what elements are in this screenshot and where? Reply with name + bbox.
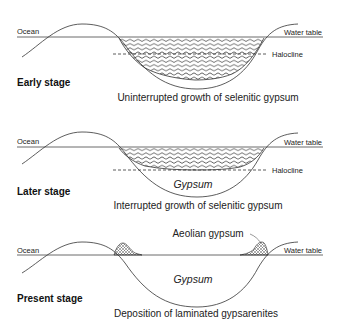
water-table-label: Water table	[284, 246, 322, 255]
ocean-label: Ocean	[17, 137, 39, 146]
stage-caption: Interrupted growth of selenitic gypsum	[114, 200, 283, 211]
gypsum-label: Gypsum	[173, 273, 212, 285]
ocean-label: Ocean	[17, 27, 39, 36]
panel-present-stage: Ocean Water table Aeolian gypsum Gypsum …	[17, 228, 323, 319]
gypsum-label: Gypsum	[173, 178, 212, 190]
aeolian-leader-line	[250, 234, 261, 243]
water-table-label: Water table	[284, 138, 322, 147]
evaporite-stages-diagram: Ocean Water table Halocline Early stage …	[0, 0, 339, 332]
stage-caption: Deposition of laminated gypsarenites	[114, 308, 278, 319]
stage-label: Early stage	[17, 77, 71, 88]
selenitic-gypsum-fill	[119, 38, 264, 80]
stage-label: Later stage	[17, 186, 71, 197]
halocline-label: Halocline	[272, 166, 303, 175]
aeolian-dune-right	[240, 242, 268, 255]
water-table-label: Water table	[284, 28, 322, 37]
aeolian-gypsum-label: Aeolian gypsum	[172, 228, 243, 239]
selenitic-gypsum-fill	[119, 148, 264, 170]
ocean-label: Ocean	[17, 246, 39, 255]
halocline-label: Halocline	[272, 50, 303, 59]
stage-label: Present stage	[17, 293, 83, 304]
stage-caption: Uninterrupted growth of selenitic gypsum	[117, 92, 298, 103]
aeolian-dune-left	[114, 243, 142, 255]
panel-later-stage: Ocean Water table Halocline Gypsum Later…	[17, 132, 323, 211]
panel-early-stage: Ocean Water table Halocline Early stage …	[17, 24, 323, 103]
